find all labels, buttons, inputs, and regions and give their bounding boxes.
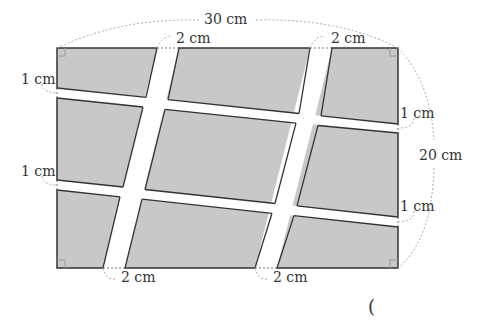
horizontal-road-1-right-width-label: 1 cm [400,106,434,120]
diagram-canvas [0,0,483,327]
horizontal-road-1-left-width-label: 1 cm [21,72,55,86]
answer-open-paren: ( [368,298,375,316]
height-dimension-arc [398,48,434,140]
road-field-diagram: 30 cm 20 cm 2 cm 2 cm 2 cm 2 cm 1 cm 1 c… [0,0,483,327]
vertical-road-1-bottom-width-label: 2 cm [121,270,155,284]
horizontal-road-2-left-width-label: 1 cm [21,164,55,178]
vertical-road-2-top-width-label: 2 cm [331,31,365,45]
field-rectangle [57,48,398,268]
width-label: 30 cm [204,12,247,26]
horizontal-road-2-right-width-label: 1 cm [400,199,434,213]
vertical-road-1-top-width-label: 2 cm [176,31,210,45]
vertical-road-2-bottom-width-label: 2 cm [273,270,307,284]
height-label: 20 cm [419,148,462,162]
